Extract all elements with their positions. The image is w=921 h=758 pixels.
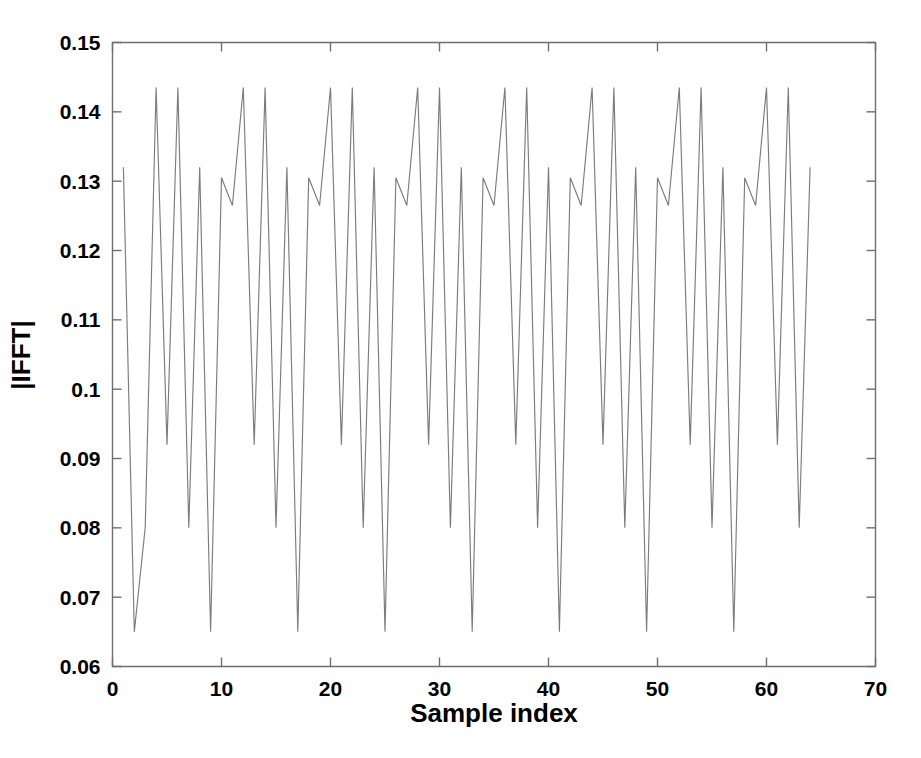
y-tick-label: 0.14: [60, 100, 101, 123]
y-tick-label: 0.06: [60, 655, 101, 678]
x-tick-label: 0: [107, 677, 119, 700]
x-tick-label: 30: [428, 677, 451, 700]
x-axis-title: Sample index: [410, 698, 578, 728]
y-tick-label: 0.08: [60, 516, 101, 539]
x-tick-label: 40: [537, 677, 560, 700]
y-axis-title: |IFFT|: [6, 320, 36, 389]
y-tick-label: 0.15: [60, 31, 101, 54]
x-axis-tick-labels: 010203040506070: [107, 677, 888, 700]
x-tick-label: 10: [210, 677, 233, 700]
y-tick-label: 0.07: [60, 586, 101, 609]
y-axis-ticks: [113, 43, 876, 667]
x-tick-label: 50: [646, 677, 669, 700]
y-tick-label: 0.13: [60, 170, 101, 193]
x-tick-label: 60: [755, 677, 778, 700]
figure-canvas: 010203040506070 0.060.070.080.090.10.110…: [0, 0, 921, 758]
x-tick-label: 20: [319, 677, 342, 700]
x-axis-ticks: [113, 43, 876, 667]
y-tick-label: 0.12: [60, 239, 101, 262]
chart-plot: 010203040506070 0.060.070.080.090.10.110…: [0, 0, 921, 758]
data-series-ifft: [123, 88, 810, 632]
x-tick-label: 70: [864, 677, 887, 700]
y-tick-label: 0.1: [71, 378, 101, 401]
y-tick-label: 0.09: [60, 447, 101, 470]
y-axis-tick-labels: 0.060.070.080.090.10.110.120.130.140.15: [60, 31, 101, 678]
y-tick-label: 0.11: [61, 308, 101, 331]
plot-axes-frame: [113, 43, 876, 667]
